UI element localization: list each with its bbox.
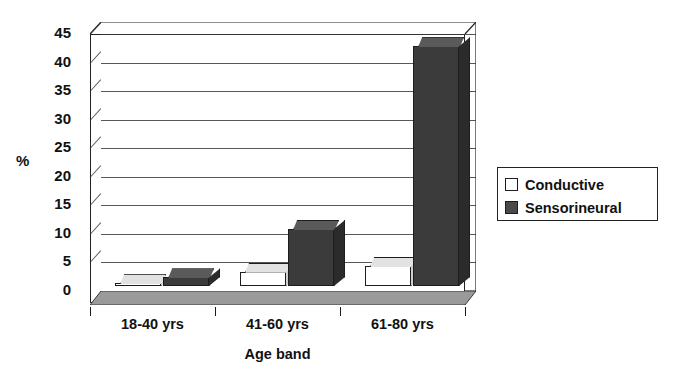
x-axis-tick-mark [465,307,466,316]
x-axis-tick-mark [90,307,91,316]
plot-floor [90,291,476,305]
gridline-depth-riser [90,22,102,35]
bar-conductive-41-60-yrs [240,272,286,286]
empty-square-icon [505,178,518,191]
bar-chart: % 051015202530354045 18-40 yrs41-60 yrs6… [0,0,687,381]
bar-top-face [370,257,416,267]
bar-sensorineural-61-80-yrs [413,46,459,286]
bar-front-face [413,46,459,286]
legend-label-conductive: Conductive [525,177,604,193]
gridline [101,34,476,35]
bar-conductive-18-40-yrs [115,283,161,286]
bar-top-face [245,263,291,273]
y-axis-tick-label: 25 [27,142,71,152]
filled-square-icon [505,201,518,214]
plot-area [90,22,476,303]
y-axis-tick-label: 20 [27,171,71,181]
x-axis-category-label: 18-40 yrs [93,316,213,332]
legend-label-sensorineural: Sensorineural [525,200,622,216]
y-axis-tick-label: 5 [27,256,71,266]
x-axis-category-label: 41-60 yrs [218,316,338,332]
bar-top-face [120,274,166,284]
bar-side-face [459,37,470,286]
bar-front-face [288,229,334,286]
bar-top-face [168,268,214,278]
y-axis-tick-label: 35 [27,85,71,95]
x-axis-tick-mark [340,307,341,316]
y-axis-tick-labels: 051015202530354045 [27,0,71,381]
bar-front-face [163,277,209,286]
bar-side-face [334,220,345,286]
y-axis-tick-label: 30 [27,114,71,124]
bar-top-face [293,220,339,230]
x-axis-category-label: 61-80 yrs [343,316,463,332]
y-axis-tick-label: 0 [27,285,71,295]
y-axis-tick-label: 10 [27,228,71,238]
bar-sensorineural-18-40-yrs [163,277,209,286]
x-axis-title: Age band [90,346,465,362]
y-axis-tick-label: 45 [27,28,71,38]
bar-sensorineural-41-60-yrs [288,229,334,286]
bar-front-face [240,272,286,286]
legend-item-sensorineural: Sensorineural [505,196,657,219]
legend-item-conductive: Conductive [505,173,657,196]
x-axis-tick-mark [215,307,216,316]
bar-top-face [418,37,464,47]
bar-front-face [365,266,411,286]
y-axis-tick-label: 15 [27,199,71,209]
y-axis-tick-label: 40 [27,57,71,67]
legend: Conductive Sensorineural [497,167,658,221]
bar-conductive-61-80-yrs [365,266,411,286]
